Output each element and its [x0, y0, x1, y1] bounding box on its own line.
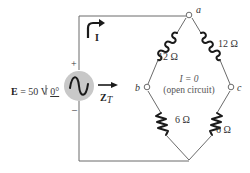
- source-label: E = 50 V 0°: [11, 86, 59, 97]
- source-minus-sign: –: [71, 104, 78, 115]
- inductor-right: 12 Ω: [192, 18, 238, 84]
- open-circuit-note: (open circuit): [163, 85, 214, 96]
- inductor-left-value: 12 Ω: [158, 51, 178, 62]
- zt-label-sub: T: [107, 94, 114, 105]
- node-a: [186, 12, 192, 18]
- source-label-value: = 50 V: [18, 86, 51, 97]
- zt-label: ZT: [100, 92, 114, 105]
- current-arrowhead-icon: [99, 19, 105, 27]
- node-c: [228, 84, 234, 90]
- node-b-label: b: [135, 82, 140, 93]
- ac-source: + – E = 50 V 0°: [11, 58, 94, 115]
- current-arrow: I: [88, 19, 105, 43]
- node-b: [144, 84, 150, 90]
- source-plus-sign: +: [71, 58, 77, 69]
- inductor-right-value: 12 Ω: [218, 38, 238, 49]
- resistor-right-value: 6 Ω: [216, 124, 231, 135]
- resistor-left-value: 6 Ω: [175, 114, 190, 125]
- resistor-right: 6 Ω: [189, 91, 231, 160]
- node-a-label: a: [196, 4, 201, 15]
- node-c-label: c: [237, 82, 242, 93]
- zt-arrowhead-icon: [111, 82, 118, 88]
- bridge-circuit-diagram: + – E = 50 V 0° I ZT 12 Ω 12 Ω: [0, 0, 250, 173]
- resistor-left: 6 Ω: [148, 91, 190, 160]
- zigzag-left-icon: [156, 113, 168, 135]
- bridge-note: I = 0 (open circuit): [163, 74, 214, 96]
- bottom-wire: [79, 101, 189, 161]
- bridge-current-note: I = 0: [178, 74, 198, 84]
- impedance-arrow: ZT: [98, 82, 118, 105]
- source-phase: 0°: [50, 86, 59, 97]
- current-label: I: [95, 32, 99, 43]
